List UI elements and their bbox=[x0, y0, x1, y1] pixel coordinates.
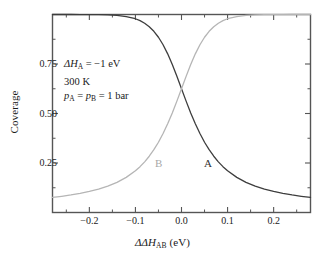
x-axis-title-unit: (eV) bbox=[167, 236, 190, 248]
x-tick-label: −0.1 bbox=[115, 215, 155, 226]
annotation-line-pressure: pA = pB = 1 bar bbox=[64, 89, 129, 107]
plot-annotation: ΔHA = −1 eV 300 K pA = pB = 1 bar bbox=[64, 57, 129, 107]
y-tick-label: 0.25 bbox=[23, 157, 57, 168]
y-tick-label: 0.75 bbox=[23, 58, 57, 69]
x-tick-label: 0.1 bbox=[208, 215, 248, 226]
chart-figure: ΔΔHAB (eV) Coverage −0.2−0.10.00.10.2 0.… bbox=[0, 0, 325, 260]
x-tick-label: 0.0 bbox=[162, 215, 202, 226]
curve-label-a: A bbox=[204, 157, 212, 169]
plot-border bbox=[53, 15, 311, 213]
y-axis-title-wrap: Coverage bbox=[4, 42, 20, 182]
x-axis-title: ΔΔHAB (eV) bbox=[0, 236, 325, 250]
x-tick-label: −0.2 bbox=[69, 215, 109, 226]
pressure-equals: = bbox=[75, 90, 86, 101]
curve-label-b: B bbox=[155, 157, 162, 169]
x-axis-title-symbol: ΔΔH bbox=[135, 236, 156, 248]
annotation-line-temperature: 300 K bbox=[64, 75, 129, 90]
pressure-value: = 1 bar bbox=[96, 90, 128, 101]
y-tick-label: 0.50 bbox=[23, 108, 57, 119]
enthalpy-symbol: ΔH bbox=[64, 58, 78, 69]
enthalpy-value: = −1 eV bbox=[83, 58, 120, 69]
plot-frame bbox=[53, 15, 311, 213]
annotation-line-enthalpy: ΔHA = −1 eV bbox=[64, 57, 129, 75]
x-axis-ticks bbox=[66, 15, 296, 213]
x-tick-label: 0.2 bbox=[254, 215, 294, 226]
x-axis-title-subscript: AB bbox=[156, 241, 167, 250]
y-axis-title: Coverage bbox=[8, 91, 20, 134]
